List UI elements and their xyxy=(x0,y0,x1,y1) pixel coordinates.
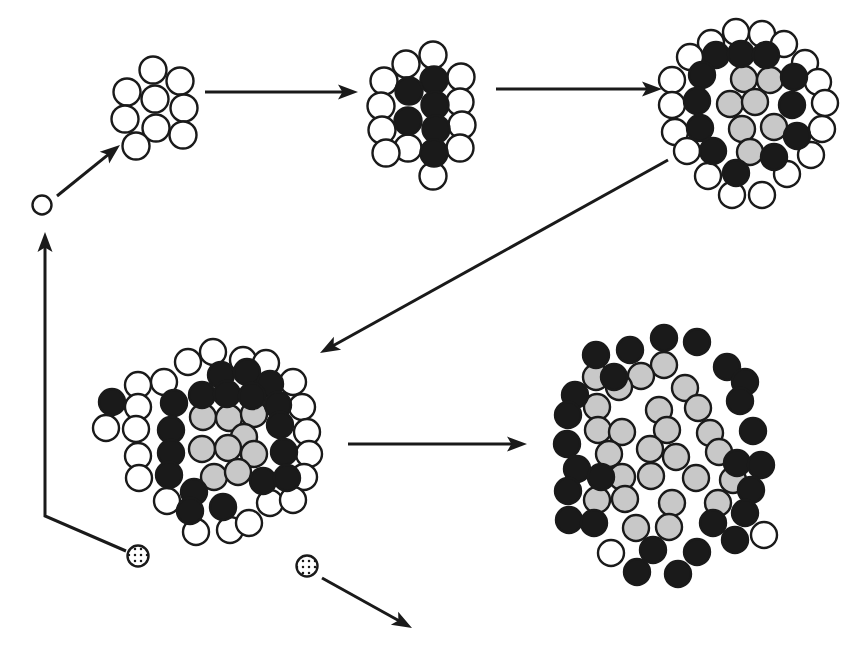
atom-black xyxy=(687,115,713,141)
atom-white xyxy=(674,138,700,164)
atom-black xyxy=(421,140,448,167)
atom-gray xyxy=(215,435,241,461)
atom-black xyxy=(601,364,627,390)
atom-white xyxy=(123,133,150,160)
atom-white xyxy=(447,135,474,162)
atom-white xyxy=(93,415,119,441)
cluster-stage-4-grown-gray-core xyxy=(93,339,322,545)
atom-black xyxy=(556,507,582,533)
atom-white xyxy=(142,86,169,113)
arrow-cluster-2-to-cluster-3 xyxy=(496,82,662,97)
arrow-cluster-3-to-cluster-4-head xyxy=(320,337,341,353)
arrow-dotted-circle-outflow xyxy=(322,578,412,628)
atom-white xyxy=(236,510,262,536)
diagram-svg xyxy=(0,0,851,653)
arrow-cluster-3-to-cluster-4-shaft xyxy=(333,160,668,346)
atom-black xyxy=(555,402,581,428)
atom-black xyxy=(689,62,715,88)
atom-white xyxy=(659,67,685,93)
atom-black xyxy=(684,88,710,114)
atom-white xyxy=(126,465,152,491)
atom-black xyxy=(753,42,779,68)
atom-white xyxy=(598,540,624,566)
atom-gray xyxy=(585,417,611,443)
atom-gray xyxy=(637,436,663,462)
atom-gray xyxy=(685,395,711,421)
atom-gray xyxy=(659,490,685,516)
clusters-group xyxy=(93,19,838,587)
atom-black xyxy=(728,41,754,67)
atom-gray xyxy=(683,465,709,491)
arrow-seed-to-cluster-1 xyxy=(57,145,120,196)
cluster-stage-3-gray-core-black-shell xyxy=(659,19,838,208)
single-white-circle-seed xyxy=(33,196,52,215)
arrow-dotted-circle-outflow-head xyxy=(391,612,412,628)
atom-white xyxy=(751,522,777,548)
atom-white xyxy=(809,116,835,142)
atom-black xyxy=(583,342,609,368)
atom-gray xyxy=(656,514,682,540)
atom-white xyxy=(167,68,194,95)
atom-black xyxy=(214,381,240,407)
atom-black xyxy=(738,477,764,503)
atom-black xyxy=(99,389,125,415)
cluster-stage-1-all-white xyxy=(112,57,198,160)
atom-white xyxy=(373,140,400,167)
atom-white xyxy=(812,90,838,116)
atom-black xyxy=(274,465,300,491)
atom-white xyxy=(749,182,775,208)
atom-gray xyxy=(189,436,215,462)
atom-black xyxy=(651,325,677,351)
atom-black xyxy=(554,431,580,457)
atom-black xyxy=(161,390,187,416)
atom-white xyxy=(114,79,141,106)
atom-black xyxy=(250,468,276,494)
atom-white xyxy=(695,163,721,189)
atom-black xyxy=(271,439,297,465)
atom-black xyxy=(722,527,748,553)
atom-white xyxy=(420,42,447,69)
atom-white xyxy=(175,349,201,375)
arrow-cluster-1-to-cluster-2 xyxy=(205,85,358,100)
atom-gray xyxy=(638,463,664,489)
atom-white xyxy=(289,394,315,420)
arrow-cluster-3-to-cluster-4 xyxy=(320,160,668,353)
arrow-cluster-4-to-cluster-5 xyxy=(348,437,527,452)
atom-black xyxy=(781,64,807,90)
atom-black xyxy=(555,478,581,504)
atom-black xyxy=(581,510,607,536)
atom-black xyxy=(665,561,691,587)
arrow-dotted-circle-outflow-shaft xyxy=(322,578,399,621)
atom-white xyxy=(371,68,398,95)
atom-black xyxy=(617,337,643,363)
atom-black xyxy=(640,537,666,563)
atom-black xyxy=(779,92,805,118)
atom-gray xyxy=(742,89,768,115)
atom-white xyxy=(140,57,167,84)
atom-black xyxy=(177,498,203,524)
atom-black xyxy=(740,418,766,444)
atom-black xyxy=(189,382,215,408)
atom-gray xyxy=(663,444,689,470)
atom-white xyxy=(171,95,198,122)
atom-black xyxy=(727,388,753,414)
dotted-circle-left xyxy=(128,546,149,567)
arrow-seed-to-cluster-1-shaft xyxy=(57,154,109,196)
cluster-stage-5-mature-particle xyxy=(554,325,777,587)
atom-black xyxy=(784,123,810,149)
atom-black xyxy=(156,462,182,488)
atom-black xyxy=(624,559,650,585)
atom-white xyxy=(123,416,149,442)
atom-black xyxy=(748,452,774,478)
diagram-canvas xyxy=(0,0,851,653)
atom-gray xyxy=(225,459,251,485)
atom-black xyxy=(588,464,614,490)
atom-black xyxy=(239,383,265,409)
atom-white xyxy=(659,92,685,118)
atom-gray xyxy=(612,486,638,512)
atom-gray xyxy=(717,91,743,117)
atom-gray xyxy=(584,487,610,513)
atom-black xyxy=(396,78,423,105)
atom-black xyxy=(684,329,710,355)
atom-white xyxy=(112,106,139,133)
